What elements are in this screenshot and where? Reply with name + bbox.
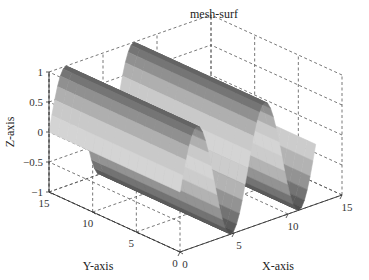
svg-text:0: 0 — [182, 258, 188, 270]
x-axis-label: X-axis — [262, 259, 294, 273]
svg-text:5: 5 — [236, 239, 242, 251]
surface-plot: 051015051015−1−0.500.51 mesh-surf X-axis… — [0, 0, 369, 280]
surface-mesh — [49, 42, 316, 234]
y-axis-label: Y-axis — [83, 259, 114, 273]
svg-text:10: 10 — [82, 217, 94, 229]
svg-text:0.5: 0.5 — [29, 96, 43, 108]
svg-text:15: 15 — [39, 197, 51, 209]
svg-text:10: 10 — [288, 220, 300, 232]
svg-text:15: 15 — [342, 201, 354, 213]
svg-text:5: 5 — [129, 237, 135, 249]
svg-text:1: 1 — [38, 66, 44, 78]
z-axis-label: Z-axis — [3, 116, 17, 147]
svg-text:−1: −1 — [31, 186, 43, 198]
chart-title: mesh-surf — [190, 7, 238, 21]
svg-text:0: 0 — [38, 126, 44, 138]
svg-text:0: 0 — [172, 257, 178, 269]
svg-text:−0.5: −0.5 — [23, 156, 43, 168]
